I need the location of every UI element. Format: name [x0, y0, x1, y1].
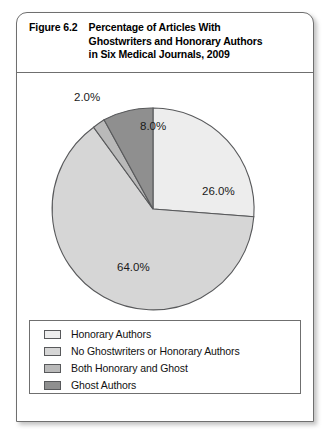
slice-label-ghost-authors: 2.0%	[74, 91, 100, 103]
title-line-3: in Six Medical Journals, 2009	[89, 48, 263, 62]
figure-number: Figure 6.2	[29, 21, 78, 33]
figure-title-block: Figure 6.2 Percentage of Articles With G…	[17, 13, 313, 73]
legend-swatch-both-honorary-and-ghost	[44, 364, 61, 373]
legend-item-both-honorary-and-ghost: Both Honorary and Ghost	[44, 360, 300, 376]
pie-slice-honorary-authors	[153, 108, 254, 217]
slice-label-both-honorary-and-ghost: 8.0%	[140, 120, 166, 132]
figure-card: Figure 6.2 Percentage of Articles With G…	[16, 12, 314, 422]
chart-legend: Honorary Authors No Ghostwriters or Hono…	[29, 320, 301, 394]
page-title: Percentage of Articles With Ghostwriters…	[89, 21, 263, 62]
title-line-1: Percentage of Articles With	[89, 21, 263, 35]
legend-item-honorary-authors: Honorary Authors	[44, 326, 300, 342]
legend-label-honorary-authors: Honorary Authors	[71, 328, 151, 340]
legend-swatch-honorary-authors	[44, 330, 61, 339]
slice-label-no-ghostwriters-or-honorary-authors: 64.0%	[117, 261, 150, 273]
legend-label-ghost-authors: Ghost Authors	[71, 379, 136, 391]
slice-label-honorary-authors: 26.0%	[202, 185, 235, 197]
title-line-2: Ghostwriters and Honorary Authors	[89, 35, 263, 49]
legend-item-no-ghostwriters-or-honorary-authors: No Ghostwriters or Honorary Authors	[44, 343, 300, 359]
pie-chart	[50, 106, 256, 312]
legend-swatch-ghost-authors	[44, 381, 61, 390]
legend-item-ghost-authors: Ghost Authors	[44, 377, 300, 393]
legend-label-no-ghostwriters-or-honorary-authors: No Ghostwriters or Honorary Authors	[71, 345, 240, 357]
legend-swatch-no-ghostwriters-or-honorary-authors	[44, 347, 61, 356]
legend-label-both-honorary-and-ghost: Both Honorary and Ghost	[71, 362, 188, 374]
